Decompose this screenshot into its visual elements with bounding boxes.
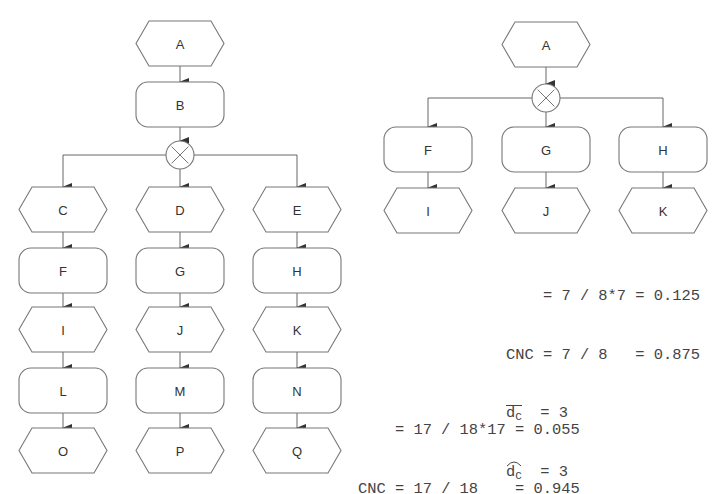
- event-node-i: I: [384, 188, 472, 233]
- event-node-e: E: [253, 187, 341, 232]
- function-node-f: F: [19, 248, 107, 293]
- node-label: H: [292, 264, 301, 279]
- node-label: D: [175, 203, 184, 218]
- node-label: C: [58, 203, 67, 218]
- event-node-j: J: [136, 307, 224, 352]
- node-label: H: [658, 143, 667, 158]
- node-label: Q: [292, 444, 302, 459]
- event-node-a: A: [136, 21, 224, 66]
- event-node-o: O: [19, 428, 107, 473]
- overline-mark: [506, 405, 522, 406]
- xor-connector-icon: [532, 84, 560, 112]
- node-label: O: [58, 444, 68, 459]
- node-label: K: [293, 323, 302, 338]
- function-node-g: G: [136, 248, 224, 293]
- right-metric-ratio: = 7 / 8*7 = 0.125: [506, 287, 700, 307]
- function-node-h: H: [253, 248, 341, 293]
- event-node-q: Q: [253, 428, 341, 473]
- event-node-p: P: [136, 428, 224, 473]
- node-label: F: [424, 143, 432, 158]
- node-label: K: [659, 204, 668, 219]
- function-node-h: H: [619, 127, 707, 172]
- node-label: B: [176, 98, 185, 113]
- d-hat-symbol: dC: [506, 463, 522, 484]
- right-metrics: = 7 / 8*7 = 0.125 CNC = 7 / 8 = 0.875 dC…: [506, 248, 700, 494]
- event-node-a: A: [502, 22, 590, 67]
- node-label: P: [176, 444, 185, 459]
- node-label: L: [59, 384, 66, 399]
- node-label: M: [175, 384, 186, 399]
- cnc-value: = 7 / 8 = 0.875: [534, 346, 700, 364]
- d-bar-symbol: dC: [506, 404, 522, 425]
- hat-mark: [506, 459, 522, 467]
- right-metric-d-hat: dC = 3: [506, 463, 700, 483]
- cnc-label: CNC: [358, 480, 386, 494]
- function-node-n: N: [253, 368, 341, 413]
- d-hat-value: = 3: [522, 463, 568, 481]
- node-label: E: [293, 203, 302, 218]
- function-node-f: F: [384, 127, 472, 172]
- node-label: I: [426, 204, 430, 219]
- right-metric-cnc: CNC = 7 / 8 = 0.875: [506, 346, 700, 366]
- node-label: F: [59, 264, 67, 279]
- function-node-l: L: [19, 368, 107, 413]
- node-label: A: [176, 37, 185, 52]
- xor-connector-icon: [166, 141, 194, 169]
- right-metric-d-bar: dC = 3: [506, 404, 700, 424]
- node-label: G: [541, 143, 551, 158]
- event-node-c: C: [19, 187, 107, 232]
- event-node-i: I: [19, 307, 107, 352]
- event-node-d: D: [136, 187, 224, 232]
- function-node-m: M: [136, 368, 224, 413]
- node-label: A: [542, 38, 551, 53]
- node-label: J: [177, 323, 184, 338]
- event-node-k: K: [619, 188, 707, 233]
- function-node-g: G: [502, 127, 590, 172]
- function-node-b: B: [136, 82, 224, 127]
- node-label: J: [543, 204, 550, 219]
- event-node-j: J: [502, 188, 590, 233]
- event-node-k: K: [253, 307, 341, 352]
- cnc-label: CNC: [506, 346, 534, 364]
- node-label: I: [61, 323, 65, 338]
- node-label: N: [292, 384, 301, 399]
- node-label: G: [175, 264, 185, 279]
- d-bar-value: = 3: [522, 404, 568, 422]
